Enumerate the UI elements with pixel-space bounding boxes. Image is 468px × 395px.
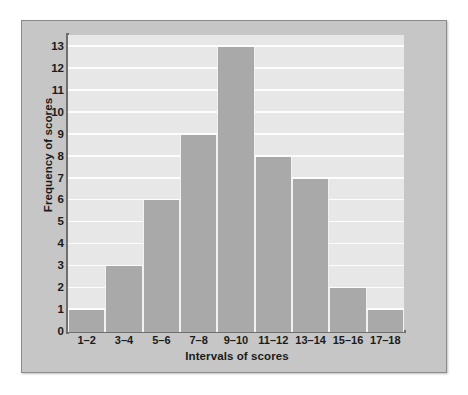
x-axis-title: Intervals of scores [67,350,407,362]
y-tick-label: 3 [38,260,64,272]
bar[interactable] [367,310,404,332]
bar[interactable] [217,47,254,332]
bar[interactable] [292,179,329,332]
y-tick-label: 9 [38,129,64,141]
bar[interactable] [255,157,292,332]
x-axis-tick-labels: 1–23–45–67–89–1011–1213–1415–1617–18 [68,335,404,351]
y-tick-label: 6 [38,194,64,206]
y-tick-label: 0 [38,326,64,338]
y-tick-label: 5 [38,216,64,228]
plot-area [68,35,404,332]
x-tick-label: 5–6 [143,335,180,346]
bar[interactable] [105,266,142,332]
figure-panel: Frequency of scores 012345678910111213 1… [21,20,447,373]
x-tick-label: 13–14 [292,335,329,346]
y-tick-label: 11 [38,85,64,97]
x-tick-label: 11–12 [255,335,292,346]
x-tick-label: 17–18 [367,335,404,346]
y-tick-label: 13 [38,41,64,53]
x-tick-label: 9–10 [217,335,254,346]
histogram-figure: Frequency of scores 012345678910111213 1… [0,0,468,395]
y-tick-label: 12 [38,63,64,75]
y-axis-tick-labels: 012345678910111213 [34,21,64,341]
bar[interactable] [329,288,366,332]
y-tick-label: 1 [38,304,64,316]
bar[interactable] [68,310,105,332]
bar[interactable] [180,135,217,332]
y-tick-label: 2 [38,282,64,294]
y-tick-label: 7 [38,173,64,185]
y-tick-label: 4 [38,238,64,250]
y-tick-label: 8 [38,151,64,163]
x-tick-label: 7–8 [180,335,217,346]
x-tick-label: 15–16 [329,335,366,346]
x-tick-label: 1–2 [68,335,105,346]
bar[interactable] [143,200,180,332]
y-tick-label: 10 [38,107,64,119]
x-tick-label: 3–4 [105,335,142,346]
